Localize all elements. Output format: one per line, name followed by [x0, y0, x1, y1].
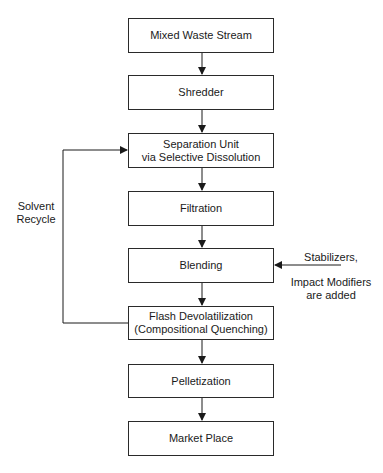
label-line: Impact Modifiers	[281, 276, 381, 289]
node-label: Pelletization	[171, 375, 230, 388]
node-pelletization: Pelletization	[128, 364, 274, 398]
node-separation-unit: Separation Unit via Selective Dissolutio…	[128, 133, 274, 168]
node-flash-devolatilization: Flash Devolatilization (Compositional Qu…	[128, 306, 274, 340]
node-blending: Blending	[128, 248, 274, 283]
additives-label-top: Stabilizers,	[281, 251, 381, 264]
node-label: Mixed Waste Stream	[150, 29, 252, 42]
node-label: via Selective Dissolution	[142, 151, 261, 164]
node-label: Flash Devolatilization	[149, 310, 253, 323]
label-line: Solvent	[14, 200, 58, 213]
node-mixed-waste-stream: Mixed Waste Stream	[128, 18, 274, 53]
solvent-recycle-label: Solvent Recycle	[14, 200, 58, 226]
node-label: Filtration	[180, 202, 222, 215]
label-line: Stabilizers,	[281, 251, 381, 264]
node-label: (Compositional Quenching)	[134, 323, 267, 336]
label-line: Recycle	[14, 213, 58, 226]
node-market-place: Market Place	[128, 421, 274, 456]
node-filtration: Filtration	[128, 191, 274, 226]
connector-lines	[0, 0, 383, 473]
node-label: Shredder	[178, 86, 223, 99]
node-label: Market Place	[169, 432, 233, 445]
label-line: are added	[281, 289, 381, 302]
node-label: Separation Unit	[163, 138, 239, 151]
additives-label-bottom: Impact Modifiers are added	[281, 276, 381, 302]
node-shredder: Shredder	[128, 75, 274, 110]
node-label: Blending	[180, 259, 223, 272]
